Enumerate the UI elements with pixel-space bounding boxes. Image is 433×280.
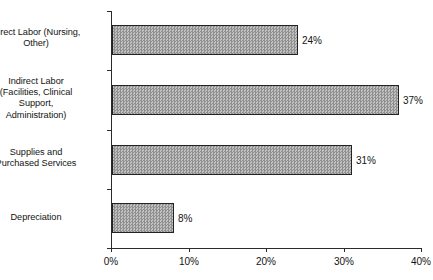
x-axis-tick [189, 248, 190, 252]
figure-caption [0, 272, 433, 280]
bar-supplies-purchased-services[interactable] [112, 145, 352, 175]
x-tick-label-2: 20% [256, 256, 276, 267]
bar-value-1: 37% [403, 95, 423, 106]
category-label-0: Direct Labor (Nursing, Other) [0, 27, 111, 49]
category-label-2: Supplies and Purchased Services [0, 147, 111, 169]
bar-value-0: 24% [302, 35, 322, 46]
plot-area: 0% 10% 20% 30% 40% 24% 37% 31% 8% [111, 11, 422, 248]
x-axis-tick [344, 248, 345, 252]
x-tick-label-4: 40% [411, 256, 431, 267]
bar-value-3: 8% [178, 213, 192, 224]
category-label-3: Depreciation [0, 212, 111, 223]
bar-direct-labor[interactable] [112, 25, 298, 55]
bar-chart: Direct Labor (Nursing, Other) Indirect L… [0, 0, 433, 280]
x-tick-label-0: 0% [104, 256, 118, 267]
y-axis-tick [107, 130, 111, 131]
category-label-1: Indirect Labor (Facilities, Clinical Sup… [0, 76, 111, 121]
bar-indirect-labor[interactable] [112, 85, 399, 115]
y-axis-tick [107, 70, 111, 71]
x-axis-tick [266, 248, 267, 252]
x-tick-label-1: 10% [179, 256, 199, 267]
y-axis-tick [107, 11, 111, 12]
bar-value-2: 31% [356, 155, 376, 166]
y-axis-tick [107, 189, 111, 190]
x-axis-tick [111, 248, 112, 252]
x-tick-label-3: 30% [334, 256, 354, 267]
bar-depreciation[interactable] [112, 203, 174, 233]
x-axis-tick [421, 248, 422, 252]
